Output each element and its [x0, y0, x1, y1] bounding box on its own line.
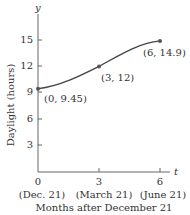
svg-text:9: 9 — [27, 86, 33, 97]
svg-text:15: 15 — [20, 34, 33, 45]
svg-text:0: 0 — [35, 176, 41, 187]
y-axis-var: y — [34, 2, 41, 13]
daylight-chart: y t 15 12 9 6 3 0 3 6 (Dec. 21) (March 2… — [0, 0, 190, 215]
y-tick-labels: 15 12 9 6 3 — [20, 34, 33, 150]
svg-text:(Dec. 21): (Dec. 21) — [19, 189, 66, 200]
annotation-1: (3, 12) — [101, 72, 134, 83]
data-point-0 — [36, 87, 40, 91]
y-axis-title: Daylight (hours) — [5, 64, 16, 147]
x-axis-title: Months after December 21 — [36, 202, 173, 213]
x-ticks — [99, 168, 160, 172]
annotation-2: (6, 14.9) — [143, 47, 186, 58]
svg-text:6: 6 — [27, 113, 33, 124]
data-point-1 — [97, 64, 101, 68]
svg-text:(March 21): (March 21) — [76, 189, 133, 200]
x-axis-var: t — [174, 166, 179, 177]
annotation-0: (0, 9.45) — [44, 93, 87, 104]
svg-text:12: 12 — [20, 60, 33, 71]
data-point-2 — [158, 39, 162, 43]
svg-text:3: 3 — [96, 176, 102, 187]
y-ticks — [38, 40, 42, 145]
svg-text:6: 6 — [157, 176, 163, 187]
x-tick-labels: 0 3 6 (Dec. 21) (March 21) (June 21) — [19, 176, 187, 200]
svg-text:(June 21): (June 21) — [140, 189, 187, 200]
svg-text:3: 3 — [27, 139, 33, 150]
